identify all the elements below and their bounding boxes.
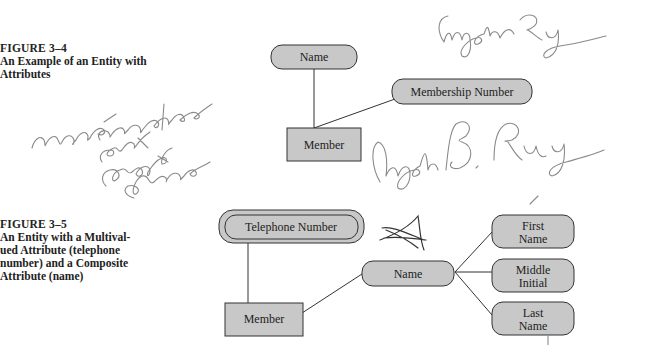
relationship-line-membership-member <box>314 99 395 128</box>
middle-initial-line-2: Initial <box>519 276 548 290</box>
composite-attribute-name-label: Name <box>394 267 423 281</box>
handwriting-middle-signature <box>373 122 604 189</box>
pen-tick-mark <box>530 196 538 204</box>
attribute-membership-number-label: Membership Number <box>411 85 514 99</box>
middle-initial-line-1: Middle <box>516 263 551 277</box>
telephone-number-label: Telephone Number <box>245 220 337 234</box>
handwriting-left-note <box>32 104 212 198</box>
attribute-name-label: Name <box>300 50 329 64</box>
relationship-line-member-name <box>302 274 362 313</box>
entity-member-2-label: Member <box>244 312 285 326</box>
first-name-line-2: Name <box>519 232 548 246</box>
entity-member-label: Member <box>304 138 345 152</box>
handwriting-top-signature <box>439 15 606 58</box>
figure-3-4-diagram: Name Membership Number Member <box>271 45 532 161</box>
last-name-line-1: Last <box>523 306 544 320</box>
first-name-line-1: First <box>522 219 545 233</box>
relationship-line-name-last <box>455 272 492 315</box>
handwriting-mark-a <box>380 216 426 250</box>
last-name-line-2: Name <box>519 319 548 333</box>
relationship-line-name-first <box>455 232 492 272</box>
er-diagrams: Name Membership Number Member Telephone … <box>0 0 648 345</box>
